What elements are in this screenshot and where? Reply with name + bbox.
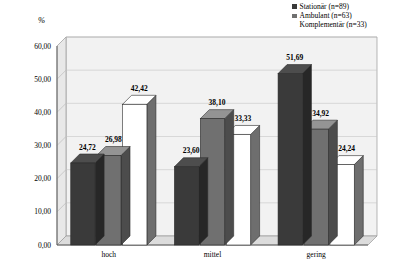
y-tick-label: 40,00 [34, 108, 51, 117]
bar-value-label: 51,69 [286, 53, 303, 62]
bar-side-face [121, 147, 130, 245]
bar-value-label: 33,33 [234, 114, 251, 123]
x-tick-label: gering [307, 250, 326, 259]
bar-side-face [251, 125, 260, 245]
bar [174, 158, 207, 245]
bar-front-face [278, 74, 302, 245]
bar-front-face [174, 167, 198, 245]
bar-side-face [95, 154, 104, 245]
x-tick-label: hoch [102, 250, 117, 259]
y-tick-label: 60,00 [34, 42, 51, 51]
y-tick-label: 20,00 [34, 174, 51, 183]
bar-side-face [147, 95, 156, 245]
bar-value-label: 24,72 [79, 143, 96, 152]
bar-side-face [328, 120, 337, 245]
bar-side-face [354, 156, 363, 245]
y-tick-label: 10,00 [34, 207, 51, 216]
bar-value-label: 38,10 [209, 98, 226, 107]
bar-chart-3d: 0,0010,0020,0030,0040,0050,0060,0042,422… [0, 0, 415, 274]
bar-value-label: 24,24 [338, 144, 355, 153]
bar [278, 65, 311, 245]
bar-side-face [302, 65, 311, 245]
bar-value-label: 42,42 [131, 84, 148, 93]
bar-side-face [199, 158, 208, 245]
bar-value-label: 26,98 [105, 135, 122, 144]
bar-side-face [225, 110, 234, 245]
y-tick-label: 30,00 [34, 141, 51, 150]
bar-front-face [71, 163, 95, 245]
x-tick-label: mittel [204, 250, 222, 259]
bar-value-label: 23,60 [183, 146, 200, 155]
bar [71, 154, 104, 245]
y-tick-label: 50,00 [34, 75, 51, 84]
y-tick-label: 0,00 [38, 241, 51, 250]
bar-value-label: 34,92 [312, 109, 329, 118]
